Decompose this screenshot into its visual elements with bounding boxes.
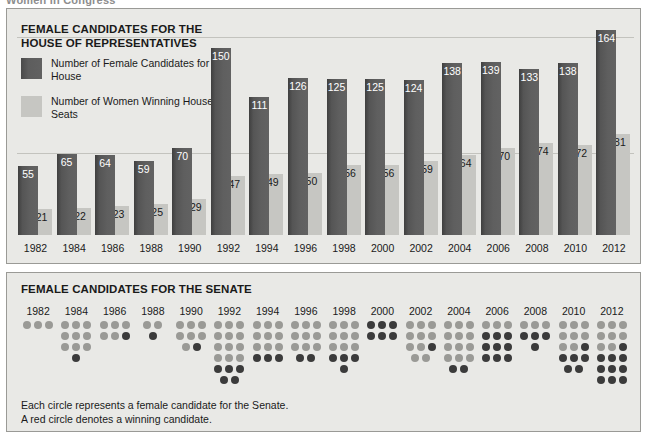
senate-dot-row [56,332,96,343]
bar-group: 12650 [288,23,323,235]
bar-value-candidates: 59 [134,164,154,175]
senate-year-column [209,321,249,387]
senate-dot-row [592,365,632,376]
senate-dot-winner [340,365,348,373]
bar-value-candidates: 111 [249,100,269,111]
bar-value-candidates: 70 [172,151,192,162]
senate-dot-row [209,321,249,332]
senate-dot-candidate [176,321,184,329]
senate-dot-candidate [198,332,206,340]
senate-dot-candidate [111,332,119,340]
senate-year-label: 1992 [209,305,249,318]
senate-year-label: 1990 [171,305,211,318]
senate-year-label: 2004 [439,305,479,318]
senate-dot-row [324,332,364,343]
senate-dot-winner [389,332,397,340]
bar-group: 5521 [18,23,53,235]
senate-dot-winner [493,343,501,351]
house-year-label: 1996 [288,241,323,255]
senate-dot-candidate [72,321,80,329]
senate-dot-row [554,321,594,332]
senate-year-column [171,321,211,354]
senate-dot-candidate [428,321,436,329]
senate-dot-row [401,354,441,365]
senate-year-axis: 1982198419861988199019921994199619982000… [19,305,631,319]
senate-year-label: 1984 [56,305,96,318]
senate-dot-row [401,332,441,343]
house-year-label: 2006 [481,241,516,255]
senate-dot-row [554,365,594,376]
bar-group: 13864 [442,23,477,235]
senate-dot-candidate [154,321,162,329]
senate-dot-candidate [264,343,272,351]
senate-dot-winner [531,332,539,340]
senate-dot-candidate [100,321,108,329]
senate-dot-row [477,354,517,365]
senate-dot-row [439,365,479,376]
senate-year-label: 2000 [362,305,402,318]
senate-dot-candidate [559,321,567,329]
senate-dot-winner [619,365,627,373]
senate-dot-row [248,354,288,365]
senate-dot-candidate [291,343,299,351]
bar-value-candidates: 139 [481,65,501,76]
senate-dot-candidate [143,321,151,329]
senate-dot-row [324,321,364,332]
senate-dot-candidate [619,321,627,329]
senate-dot-candidate [122,321,130,329]
senate-dot-candidate [570,332,578,340]
senate-dot-winner [493,332,501,340]
senate-dot-winner [340,354,348,362]
senate-dot-winner [504,332,512,340]
senate-dot-row [439,321,479,332]
bar-group: 13872 [558,23,593,235]
bar-candidates: 111 [249,97,269,235]
senate-dot-winner [482,343,490,351]
senate-dot-row [248,343,288,354]
senate-dot-winner [520,332,528,340]
senate-dot-row [171,332,211,343]
house-year-label: 2000 [365,241,400,255]
senate-dot-candidate [264,321,272,329]
senate-dot-winner [581,343,589,351]
senate-dot-row [209,332,249,343]
senate-dot-winner [619,376,627,384]
senate-dot-candidate [111,321,119,329]
senate-dot-candidate [455,343,463,351]
senate-dot-candidate [570,343,578,351]
bar-candidates: 59 [134,161,154,235]
senate-dot-candidate [313,321,321,329]
senate-dot-candidate [581,332,589,340]
senate-dot-winner [619,343,627,351]
senate-dot-row [324,354,364,365]
senate-dot-candidate [214,343,222,351]
senate-dot-row [133,332,173,343]
senate-dot-winner [559,354,567,362]
senate-dot-candidate [83,343,91,351]
house-year-label: 2008 [519,241,554,255]
bar-group: 6423 [95,23,130,235]
senate-year-column [362,321,402,343]
house-year-label: 1990 [172,241,207,255]
senate-dot-winner [220,376,228,384]
senate-dot-candidate [520,321,528,329]
senate-dot-row [209,376,249,387]
senate-dot-candidate [482,321,490,329]
senate-dot-candidate [214,354,222,362]
senate-dot-candidate [275,343,283,351]
bar-value-candidates: 138 [442,66,462,77]
senate-dot-candidate [187,332,195,340]
senate-dot-row [286,343,326,354]
bar-group: 12556 [365,23,400,235]
house-year-axis: 1982198419861988199019921994199619982000… [17,241,634,257]
senate-dot-candidate [329,343,337,351]
senate-dot-winner [608,365,616,373]
senate-dot-row [592,332,632,343]
senate-dot-winner [264,354,272,362]
caption-line-1: Each circle represents a female candidat… [21,399,288,413]
senate-dot-row [401,321,441,332]
senate-year-column [95,321,135,343]
senate-dot-row [133,321,173,332]
senate-dot-row [286,321,326,332]
senate-dot-candidate [45,321,53,329]
